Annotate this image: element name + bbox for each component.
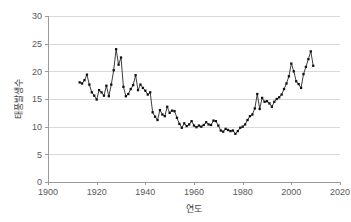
data-point (297, 83, 299, 85)
x-tick-label: 2020 (330, 187, 350, 197)
data-point (115, 48, 117, 50)
data-point (217, 124, 219, 126)
data-point (105, 85, 107, 87)
data-point (300, 87, 302, 89)
data-point (151, 111, 153, 113)
x-tick-label: 1960 (184, 187, 204, 197)
data-point (161, 113, 163, 115)
data-point (103, 95, 105, 97)
data-point (276, 98, 278, 100)
data-point (285, 82, 287, 84)
data-point (137, 89, 139, 91)
data-point (254, 107, 256, 109)
chart-container: 051015202530 190019201940196019802000202… (0, 0, 351, 222)
data-point (156, 119, 158, 121)
data-point (108, 95, 110, 97)
data-point (307, 58, 309, 60)
axis-lines (45, 16, 341, 185)
data-point (188, 123, 190, 125)
data-point (127, 93, 129, 95)
data-point (117, 64, 119, 66)
data-point (173, 110, 175, 112)
data-point (273, 101, 275, 103)
data-point (110, 83, 112, 85)
data-point (256, 93, 258, 95)
x-axis-ticks: 1900192019401960198020002020 (38, 187, 350, 197)
data-point (232, 129, 234, 131)
data-point (239, 127, 241, 129)
data-point (120, 56, 122, 58)
data-point (78, 81, 80, 83)
data-point (181, 127, 183, 129)
data-point (210, 124, 212, 126)
y-axis-ticks: 051015202530 (32, 11, 42, 187)
y-tick-label: 10 (32, 122, 42, 132)
data-line-series (80, 49, 314, 134)
data-point (207, 123, 209, 125)
x-tick-label: 1980 (233, 187, 253, 197)
data-point (288, 75, 290, 77)
data-point (227, 129, 229, 131)
data-point (93, 95, 95, 97)
data-point (169, 112, 171, 114)
data-point (88, 83, 90, 85)
data-point (246, 119, 248, 121)
data-point (159, 109, 161, 111)
data-point (186, 125, 188, 127)
data-point (195, 126, 197, 128)
data-point (198, 124, 200, 126)
data-point (164, 115, 166, 117)
data-point (234, 133, 236, 135)
y-tick-label: 0 (37, 177, 42, 187)
data-point (166, 106, 168, 108)
data-point (149, 91, 151, 93)
data-point (142, 87, 144, 89)
data-point (132, 84, 134, 86)
data-point (268, 102, 270, 104)
data-point (193, 124, 195, 126)
data-point (200, 126, 202, 128)
y-axis-title: 태풍발생수 (14, 79, 24, 119)
data-point (178, 123, 180, 125)
data-point (251, 113, 253, 115)
data-point (224, 128, 226, 130)
data-point (310, 50, 312, 52)
data-point (183, 122, 185, 124)
data-point (96, 98, 98, 100)
data-point (293, 70, 295, 72)
data-point (215, 120, 217, 122)
y-tick-label: 30 (32, 11, 42, 21)
chart-plot: 051015202530 190019201940196019802000202… (0, 0, 351, 222)
data-point (261, 97, 263, 99)
gridlines (48, 17, 340, 155)
data-point (312, 65, 314, 67)
data-point (98, 89, 100, 91)
data-point (220, 129, 222, 131)
data-point (122, 86, 124, 88)
data-point (190, 120, 192, 122)
data-point (290, 62, 292, 64)
data-point (212, 119, 214, 121)
data-point (86, 74, 88, 76)
data-point (144, 90, 146, 92)
data-point (280, 93, 282, 95)
y-tick-label: 15 (32, 94, 42, 104)
data-point (244, 123, 246, 125)
data-point (229, 130, 231, 132)
data-point (283, 88, 285, 90)
data-point (130, 88, 132, 90)
data-point (259, 108, 261, 110)
data-point (154, 116, 156, 118)
data-markers (78, 48, 314, 135)
x-tick-label: 1900 (38, 187, 58, 197)
data-point (222, 131, 224, 133)
data-point (266, 100, 268, 102)
data-point (125, 95, 127, 97)
data-point (305, 66, 307, 68)
y-tick-label: 20 (32, 67, 42, 77)
data-point (91, 91, 93, 93)
data-point (249, 115, 251, 117)
x-tick-label: 1940 (135, 187, 155, 197)
data-point (242, 126, 244, 128)
data-point (113, 69, 115, 71)
